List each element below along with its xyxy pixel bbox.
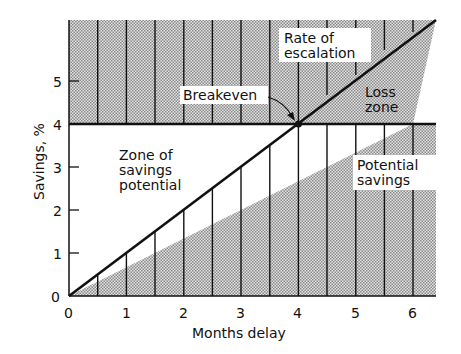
x-tick-label: 3 bbox=[236, 305, 245, 321]
breakeven-label: Breakeven bbox=[183, 87, 257, 103]
x-tick-label: 0 bbox=[64, 305, 73, 321]
zone-label-1: Zone of bbox=[119, 147, 174, 163]
y-tick-label: 0 bbox=[51, 289, 60, 305]
x-tick-label: 4 bbox=[293, 305, 302, 321]
chart: Rate of escalation Breakeven Loss zone Z… bbox=[0, 0, 461, 354]
y-tick-label: 2 bbox=[53, 203, 62, 219]
x-tick-label: 1 bbox=[122, 305, 131, 321]
potential-label-2: savings bbox=[357, 172, 410, 188]
zone-label-3: potential bbox=[119, 177, 181, 193]
y-tick-label: 1 bbox=[53, 246, 62, 262]
y-tick-label: 5 bbox=[53, 74, 62, 90]
rate-label-1: Rate of bbox=[284, 30, 335, 46]
rate-label-2: escalation bbox=[284, 45, 355, 61]
y-axis-title: Savings, % bbox=[31, 123, 47, 200]
x-tick-label: 2 bbox=[179, 305, 188, 321]
x-tick-label: 6 bbox=[408, 305, 417, 321]
loss-label-2: zone bbox=[365, 99, 398, 115]
x-tick-label: 5 bbox=[351, 305, 360, 321]
potential-label-1: Potential bbox=[357, 157, 418, 173]
y-tick-label: 3 bbox=[53, 160, 62, 176]
x-axis-title: Months delay bbox=[192, 325, 286, 341]
zone-label-2: savings bbox=[119, 162, 172, 178]
breakeven-point bbox=[295, 121, 302, 128]
loss-label-1: Loss bbox=[365, 84, 396, 100]
y-tick-label: 4 bbox=[53, 117, 62, 133]
